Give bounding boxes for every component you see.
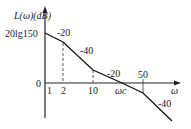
x-tick-50: 50: [138, 70, 148, 80]
slope-label-1: -20: [57, 28, 70, 38]
origin-label: 0: [36, 79, 41, 89]
y-axis-label-text: L(ω)(dB): [14, 10, 51, 21]
x-axis-label: ω: [171, 86, 178, 96]
x-tick-2: 2: [61, 86, 66, 96]
x-tick-1: 1: [47, 86, 52, 96]
x-tick-10: 10: [88, 86, 98, 96]
slope-label-4: -40: [158, 99, 171, 109]
slope-label-2: -40: [80, 46, 93, 56]
start-level-label: 20lg150: [5, 29, 38, 39]
x-tick-wc: ωc: [115, 86, 127, 96]
slope-label-3: -20: [107, 69, 120, 79]
y-axis-label: L(ω)(dB): [14, 11, 51, 21]
